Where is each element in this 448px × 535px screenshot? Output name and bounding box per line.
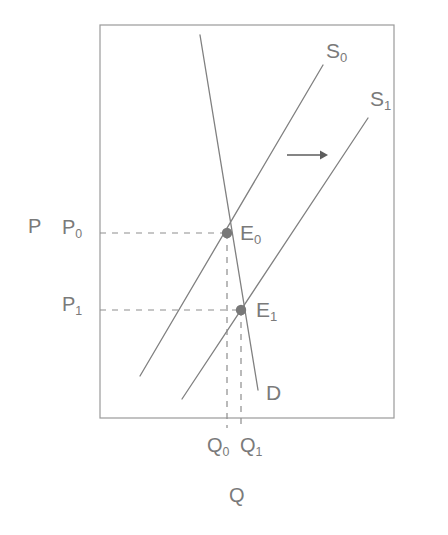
shift-arrow-icon bbox=[287, 151, 328, 160]
axis-label-price: P bbox=[28, 216, 41, 236]
curve-label-s1: S1 bbox=[370, 88, 391, 112]
quantity-tick-label-q1-subscript: 1 bbox=[256, 445, 263, 459]
point-label-e1-text: E bbox=[256, 298, 270, 321]
quantity-tick-label-q1-text: Q bbox=[240, 434, 256, 456]
axis-label-quantity-text: Q bbox=[229, 484, 245, 506]
point-label-e1-subscript: 1 bbox=[270, 309, 277, 324]
curve-label-s1-subscript: 1 bbox=[384, 98, 391, 113]
curve-label-s0-text: S bbox=[326, 39, 340, 62]
supply-demand-figure: S0 S1 D E0 E1 P P0 P1 Q0 Q1 Q bbox=[0, 0, 448, 535]
price-tick-label-p1-text: P bbox=[62, 293, 75, 315]
curve-label-d-text: D bbox=[266, 381, 281, 404]
supply-curve-s1 bbox=[182, 118, 368, 399]
quantity-tick-label-q0: Q0 bbox=[207, 435, 229, 458]
curve-label-s0: S0 bbox=[326, 40, 347, 64]
equilibrium-point-e1 bbox=[236, 305, 246, 315]
supply-curve-s0 bbox=[140, 65, 323, 376]
price-tick-label-p0: P0 bbox=[62, 217, 82, 240]
point-label-e1: E1 bbox=[256, 299, 277, 323]
curve-label-s0-subscript: 0 bbox=[340, 50, 347, 65]
price-tick-label-p1: P1 bbox=[62, 294, 82, 317]
point-label-e0-subscript: 0 bbox=[254, 232, 261, 247]
quantity-tick-label-q1: Q1 bbox=[240, 435, 262, 458]
curve-label-d: D bbox=[266, 382, 281, 403]
curve-label-s1-text: S bbox=[370, 87, 384, 110]
demand-curve bbox=[200, 35, 258, 390]
axis-label-quantity: Q bbox=[229, 485, 245, 505]
axis-label-price-text: P bbox=[28, 215, 41, 237]
equilibrium-point-e0 bbox=[222, 228, 232, 238]
price-tick-label-p0-text: P bbox=[62, 216, 75, 238]
point-label-e0: E0 bbox=[240, 222, 261, 246]
price-tick-label-p0-subscript: 0 bbox=[75, 227, 82, 241]
point-label-e0-text: E bbox=[240, 221, 254, 244]
quantity-tick-label-q0-subscript: 0 bbox=[223, 445, 230, 459]
price-tick-label-p1-subscript: 1 bbox=[75, 304, 82, 318]
quantity-tick-label-q0-text: Q bbox=[207, 434, 223, 456]
